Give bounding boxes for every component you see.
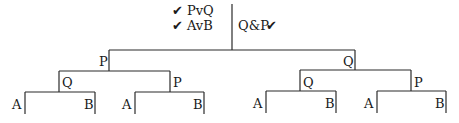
leaf-label: A (363, 96, 374, 111)
leaf-label: A (11, 97, 22, 112)
check-icon: ✔ (266, 18, 277, 33)
left-node-label: P (99, 54, 108, 69)
leaf-label: B (435, 96, 445, 111)
left-child-1-label: Q (62, 75, 73, 90)
check-icon: ✔ (172, 18, 183, 33)
right-node-label: Q (343, 54, 354, 69)
leaf-label: B (84, 97, 94, 112)
logic-tree-diagram: ✔ PvQ ✔ AvB Q&P ✔ P Q Q P Q P A B A B A … (0, 0, 459, 123)
right-child-2-label: P (414, 75, 423, 90)
root-formula-qp: Q&P (238, 18, 269, 33)
leaf-label: A (252, 96, 263, 111)
right-child-1-label: Q (303, 75, 314, 90)
root-formula-avb: AvB (186, 18, 213, 33)
leaf-label: A (121, 97, 132, 112)
leaf-label: B (325, 96, 335, 111)
check-icon: ✔ (172, 3, 183, 18)
left-child-2-label: P (173, 75, 182, 90)
leaf-label: B (193, 97, 203, 112)
root-formula-pvq: PvQ (187, 3, 214, 18)
